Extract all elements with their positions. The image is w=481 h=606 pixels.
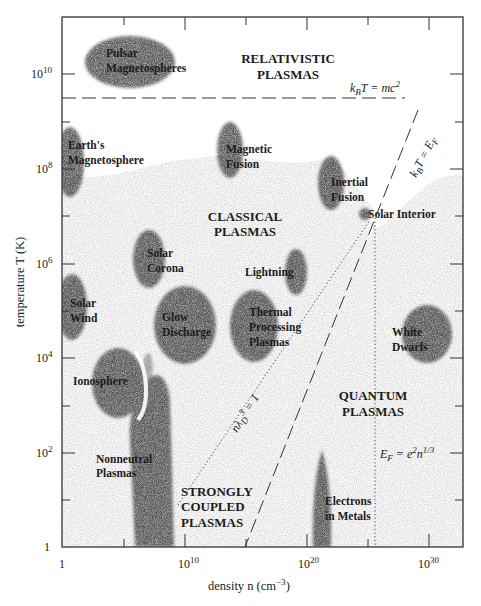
x-tick-1e20: 1020 bbox=[298, 555, 320, 571]
label-thermal-3: Plasmas bbox=[249, 336, 290, 348]
eq-relativistic: kBT = mc2 bbox=[350, 79, 400, 97]
x-tick-1: 1 bbox=[59, 557, 65, 571]
label-strongly-3: PLASMAS bbox=[181, 515, 243, 530]
label-wind-1: Solar bbox=[70, 297, 96, 309]
label-white-1: White bbox=[392, 326, 422, 338]
y-tick-1e8: 108 bbox=[36, 160, 53, 176]
label-pulsar-2: Magnetospheres bbox=[106, 62, 187, 75]
y-tick-1e2: 102 bbox=[36, 444, 53, 460]
label-earth-1: Earth's bbox=[68, 139, 105, 151]
plasma-diagram: 1 102 104 106 108 1010 1 1010 1020 1030 … bbox=[0, 0, 481, 606]
x-tick-1e10: 1010 bbox=[178, 555, 200, 571]
label-nonneutral-1: Nonneutral bbox=[96, 453, 152, 465]
label-corona-2: Corona bbox=[147, 262, 184, 274]
label-relativistic-1: RELATIVISTIC bbox=[241, 51, 335, 66]
label-strongly-1: STRONGLY bbox=[181, 484, 253, 499]
label-classical-2: PLASMAS bbox=[214, 224, 276, 239]
label-metals-2: in Metals bbox=[325, 510, 371, 522]
label-nonneutral-2: Plasmas bbox=[96, 467, 137, 479]
y-axis-title: temperature T (K) bbox=[13, 237, 27, 327]
label-glow-2: Discharge bbox=[162, 326, 211, 339]
label-classical-1: CLASSICAL bbox=[208, 209, 283, 224]
blob-solar-corona bbox=[133, 230, 165, 288]
y-tick-1: 1 bbox=[44, 540, 50, 554]
label-lightning: Lightning bbox=[245, 266, 294, 279]
label-solar-interior: Solar Interior bbox=[368, 208, 436, 220]
label-quantum-1: QUANTUM bbox=[339, 388, 408, 403]
y-tick-labels: 1 102 104 106 108 1010 bbox=[31, 65, 53, 554]
y-tick-1e10: 1010 bbox=[31, 65, 53, 81]
y-tick-1e6: 106 bbox=[36, 255, 53, 271]
label-quantum-2: PLASMAS bbox=[342, 404, 404, 419]
y-tick-1e4: 104 bbox=[36, 349, 53, 365]
blob-glow-discharge bbox=[154, 286, 216, 364]
x-tick-labels: 1 1010 1020 1030 bbox=[59, 555, 440, 571]
label-thermal-2: Processing bbox=[249, 321, 301, 334]
label-glow-1: Glow bbox=[162, 311, 189, 323]
label-white-2: Dwarfs bbox=[392, 341, 428, 353]
label-metals-1: Electrons bbox=[325, 495, 372, 507]
label-thermal-1: Thermal bbox=[249, 306, 292, 318]
label-wind-2: Wind bbox=[70, 312, 98, 324]
label-strongly-2: COUPLED bbox=[181, 499, 245, 514]
label-magfus-2: Fusion bbox=[226, 158, 260, 170]
label-earth-2: Magnetosphere bbox=[68, 154, 144, 167]
label-pulsar-1: Pulsar bbox=[106, 47, 138, 59]
label-inertial-2: Fusion bbox=[331, 191, 365, 203]
label-relativistic-2: PLASMAS bbox=[257, 67, 319, 82]
label-magfus-1: Magnetic bbox=[226, 143, 272, 156]
label-ionosphere: Ionosphere bbox=[73, 375, 128, 388]
x-axis-title: density n (cm−3) bbox=[208, 577, 290, 593]
x-tick-1e30: 1030 bbox=[418, 555, 440, 571]
label-inertial-1: Inertial bbox=[331, 176, 368, 188]
label-corona-1: Solar bbox=[147, 247, 173, 259]
